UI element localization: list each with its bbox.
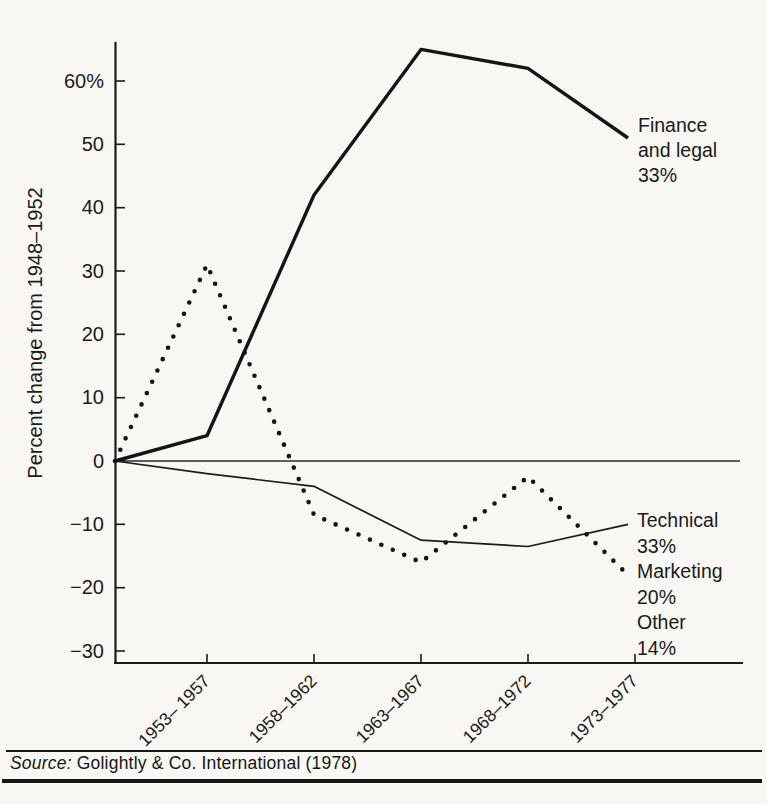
source-text: Golightly & Co. International (1978) <box>77 753 358 773</box>
x-tick-label: 1968–1972 <box>459 671 535 747</box>
y-tick-label: 50 <box>82 133 104 155</box>
technical-label: Technical <box>637 509 718 531</box>
line-chart: 60% 50 40 30 20 10 0 −10 −20 −30 1953– 1… <box>0 0 767 804</box>
series-line-technical <box>115 461 628 547</box>
source-divider-bottom <box>2 779 762 783</box>
x-tick-label: 1953– 1957 <box>134 671 214 751</box>
technical-share: 33% <box>637 535 676 557</box>
source-divider-top <box>6 750 762 752</box>
series-label-share: 33% <box>638 164 677 186</box>
series-label-line: Finance <box>638 114 707 136</box>
series-line-marketing-dotted <box>115 265 628 575</box>
series-line-finance-and-legal <box>115 49 628 461</box>
x-tick-label: 1963–1967 <box>352 671 428 747</box>
other-share: 14% <box>637 637 676 659</box>
marketing-share: 20% <box>637 586 676 608</box>
y-tick-label: 60% <box>64 70 104 92</box>
marketing-label: Marketing <box>637 560 723 582</box>
y-axis-title: Percent change from 1948–1952 <box>24 187 46 478</box>
series-label-line: and legal <box>638 139 717 161</box>
x-tick-label: 1958–1962 <box>245 671 321 747</box>
y-tick-label: −10 <box>70 513 104 535</box>
finance-and-legal-label: Finance and legal 33% <box>638 114 717 186</box>
book-figure-page: 60% 50 40 30 20 10 0 −10 −20 −30 1953– 1… <box>0 0 767 804</box>
x-tick-label: 1973–1977 <box>566 671 642 747</box>
y-tick-label: 0 <box>93 450 104 472</box>
y-tick-label: 30 <box>82 260 104 282</box>
x-axis-labels: 1953– 1957 1958–1962 1963–1967 1968–1972… <box>134 671 642 751</box>
y-tick-label: −20 <box>70 576 104 598</box>
y-tick-label: 40 <box>82 196 104 218</box>
y-tick-label: 10 <box>82 386 104 408</box>
y-tick-label: 20 <box>82 323 104 345</box>
y-axis-labels: 60% 50 40 30 20 10 0 −10 −20 −30 <box>64 70 104 662</box>
source-note: Source: Golightly & Co. International (1… <box>10 753 757 774</box>
other-label: Other <box>637 611 686 633</box>
right-series-labels: Technical 33% Marketing 20% Other 14% <box>637 509 723 659</box>
source-label: Source: <box>10 753 72 773</box>
y-tick-label: −30 <box>70 640 104 662</box>
